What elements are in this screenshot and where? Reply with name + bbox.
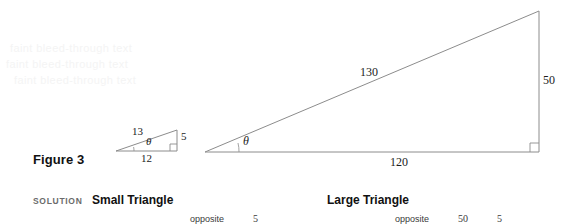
- large-triangle-outline: [205, 11, 539, 152]
- clipped-formula-row: opposite 5 opposite 50 5: [0, 214, 562, 224]
- small-opposite-word: opposite: [190, 214, 224, 224]
- large-triangle-shape: [205, 11, 539, 152]
- large-triangle-height-label: 50: [543, 73, 555, 88]
- large-triangle-right-angle-icon: [530, 143, 539, 152]
- large-triangle-hypotenuse-label: 130: [360, 65, 378, 80]
- small-opposite-value: 5: [253, 214, 258, 224]
- small-triangle-hypotenuse-label: 13: [132, 125, 143, 137]
- large-triangle-angle-arc-icon: [238, 143, 239, 152]
- large-opposite-word: opposite: [395, 214, 429, 224]
- small-triangle-right-angle-icon: [170, 144, 177, 151]
- figure-page: faint bleed-through text faint bleed-thr…: [0, 0, 562, 224]
- small-triangle-theta-label: θ: [146, 135, 151, 147]
- triangles-drawing: [0, 0, 562, 224]
- large-triangle-heading: Large Triangle: [327, 193, 409, 207]
- large-triangle-base-label: 120: [390, 155, 408, 170]
- large-opposite-value-reduced: 5: [497, 214, 502, 224]
- small-triangle-height-label: 5: [181, 130, 187, 142]
- small-triangle-base-label: 12: [141, 152, 152, 164]
- large-opposite-value: 50: [458, 214, 468, 224]
- small-triangle-heading: Small Triangle: [92, 193, 173, 207]
- large-triangle-theta-label: θ: [243, 134, 249, 149]
- figure-caption: Figure 3: [33, 152, 84, 167]
- solution-label: SOLUTION: [33, 196, 83, 206]
